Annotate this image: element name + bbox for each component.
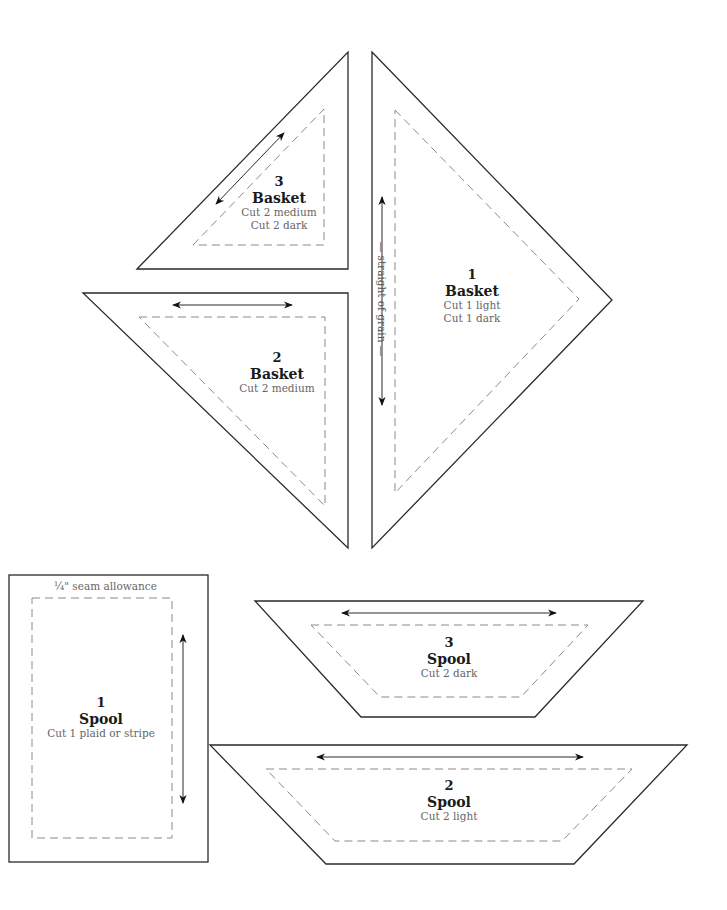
seam-allowance-note: ¼" seam allowance (54, 580, 157, 592)
label-basket-2: 2 Basket Cut 2 medium (239, 350, 314, 395)
cut-line (137, 52, 348, 269)
piece-name: Spool (421, 651, 478, 668)
cut-instruction: Cut 1 plaid or stripe (47, 727, 155, 740)
cut-line (83, 293, 348, 548)
straight-of-grain-label: — straight of grain — (376, 239, 388, 359)
cut-instruction: Cut 1 light (444, 299, 501, 312)
grain-label-text: straight of grain (376, 256, 388, 343)
label-spool-3: 3 Spool Cut 2 dark (421, 635, 478, 680)
piece-basket-2 (83, 293, 348, 548)
label-basket-1: 1 Basket Cut 1 light Cut 1 dark (444, 267, 501, 325)
piece-number: 3 (241, 174, 316, 190)
grain-line-dash: — (376, 342, 388, 356)
grain-line-dash: — (376, 242, 388, 256)
piece-basket-3 (137, 52, 348, 269)
piece-number: 1 (47, 695, 155, 711)
piece-name: Basket (444, 283, 501, 300)
cut-instruction: Cut 2 dark (421, 667, 478, 680)
label-basket-3: 3 Basket Cut 2 medium Cut 2 dark (241, 174, 316, 232)
cut-instruction: Cut 2 light (421, 810, 478, 823)
label-spool-2: 2 Spool Cut 2 light (421, 778, 478, 823)
cut-instruction: Cut 1 dark (444, 312, 501, 325)
piece-number: 2 (239, 350, 314, 366)
piece-name: Spool (47, 711, 155, 728)
piece-number: 2 (421, 778, 478, 794)
piece-name: Spool (421, 794, 478, 811)
piece-number: 3 (421, 635, 478, 651)
cut-instruction: Cut 2 dark (241, 219, 316, 232)
cut-instruction: Cut 2 medium (239, 382, 314, 395)
piece-number: 1 (444, 267, 501, 283)
piece-name: Basket (239, 366, 314, 383)
label-spool-1: 1 Spool Cut 1 plaid or stripe (47, 695, 155, 740)
cut-instruction: Cut 2 medium (241, 206, 316, 219)
piece-name: Basket (241, 190, 316, 207)
pattern-sheet (0, 0, 727, 910)
